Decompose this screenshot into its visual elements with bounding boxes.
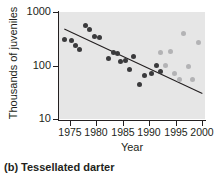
y-tick-label: 1000: [27, 6, 51, 17]
figure-caption: (b) Tessellated darter: [4, 161, 114, 174]
y-tick-label: 10: [39, 113, 51, 124]
plot-area: [59, 12, 205, 119]
data-point: [69, 38, 74, 43]
data-point: [149, 71, 154, 76]
data-point: [137, 82, 142, 87]
data-point: [154, 63, 159, 68]
x-axis-line: [58, 120, 206, 121]
figure-panel: 101001000 197519801985199019952000 Thous…: [0, 0, 216, 178]
data-point: [127, 67, 132, 72]
data-point: [131, 54, 136, 59]
data-point: [97, 35, 102, 40]
data-point: [142, 73, 147, 78]
data-point: [168, 49, 173, 54]
y-tick-mark: [53, 119, 58, 120]
x-axis-title: Year: [59, 141, 205, 153]
data-point: [123, 58, 128, 63]
data-point: [163, 63, 168, 68]
y-axis-line: [58, 11, 59, 121]
x-tick-label: 1990: [134, 127, 164, 138]
data-point: [92, 34, 97, 39]
y-tick-mark: [53, 12, 58, 13]
x-tick-label: 2000: [187, 127, 216, 138]
trendline: [59, 12, 205, 119]
y-tick-mark: [53, 66, 58, 67]
data-point: [177, 77, 182, 82]
y-axis-title: Thousands of juveniles: [7, 4, 19, 122]
y-tick-label: 100: [33, 60, 51, 71]
data-point: [196, 40, 201, 45]
x-tick-label: 1980: [81, 127, 111, 138]
